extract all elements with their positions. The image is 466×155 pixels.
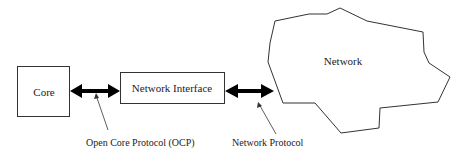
core-node: Core [18, 67, 70, 117]
core-label: Core [33, 86, 55, 98]
network-interface-label: Network Interface [132, 82, 212, 94]
network-node: Network [268, 8, 450, 133]
network-interface-node: Network Interface [121, 73, 225, 104]
network-protocol-double-arrow [225, 84, 274, 98]
ocp-double-arrow [70, 84, 120, 98]
ocp-pointer [94, 93, 108, 130]
network-protocol-pointer [257, 102, 276, 134]
diagram-canvas: Core Network Interface Network Open Core… [0, 0, 466, 155]
network-protocol-label: Network Protocol [232, 137, 304, 148]
network-label: Network [324, 55, 363, 67]
ocp-label: Open Core Protocol (OCP) [86, 137, 195, 149]
